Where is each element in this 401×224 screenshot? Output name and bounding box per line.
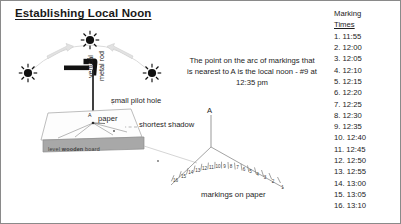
marking-time-item: 15. 13:05 [334, 189, 396, 200]
marking-time-item: 7. 12:25 [334, 99, 396, 110]
marking-times-list: 1. 11:552. 12:003. 12:054. 12:105. 12:15… [334, 31, 396, 212]
arc-marking-number: 5 [249, 169, 252, 174]
label-markings-on-paper: markings on paper [201, 191, 266, 200]
shadow-rays [58, 123, 127, 138]
marking-times-header-line2: Times [334, 19, 396, 30]
arc-marking-number: 7 [236, 165, 239, 170]
arc-marking-number: 12 [202, 165, 207, 170]
arc-marking-number: 9 [223, 163, 226, 168]
explanatory-note: The point on the arc of markings that is… [187, 56, 317, 89]
marking-time-item: 5. 12:15 [334, 76, 396, 87]
arc-marking-number: 2 [272, 179, 275, 184]
marking-time-item: 12. 12:50 [334, 155, 396, 166]
pilot-hole-dot [113, 130, 115, 132]
arc-marking-number: 11 [209, 164, 214, 169]
sun-icon-right [143, 64, 161, 82]
marking-time-item: 6. 12:20 [334, 87, 396, 98]
label-small-pilot-hole: small pilot hole [111, 97, 161, 105]
label-vertical: vertical [87, 55, 95, 78]
label-paper: paper [98, 115, 117, 123]
marking-time-item: 10. 12:40 [334, 132, 396, 143]
marking-time-item: 2. 12:00 [334, 42, 396, 53]
marking-time-item: 11. 12:45 [334, 144, 396, 155]
board-text-prefix: level [48, 146, 62, 152]
paper-sheet [41, 109, 142, 140]
marking-time-item: 1. 11:55 [334, 31, 396, 42]
marking-time-item: 16. 13:10 [334, 200, 396, 211]
diagram-page: Establishing Local Noon [0, 0, 401, 224]
point-a-board-dot [92, 122, 95, 125]
marking-time-item: 3. 12:05 [334, 53, 396, 64]
arc-marking-number: 10 [215, 164, 220, 169]
leader-board-to-arc [144, 146, 197, 163]
label-shortest-shadow: shortest shadow [139, 121, 194, 129]
sun-icon-left [19, 64, 37, 82]
arc-marking-number: 6 [243, 167, 246, 172]
arc-marking-number: 15 [181, 173, 186, 178]
arc-marking-number: 14 [188, 170, 193, 175]
arrow-icon-left [47, 43, 74, 58]
marking-time-item: 14. 13:00 [334, 178, 396, 189]
label-metal-rod: metal rod [98, 51, 106, 81]
arc-marking-number: 4 [256, 171, 259, 176]
arc-marking-number: 8 [230, 164, 233, 169]
arc-marking-number: 3 [264, 175, 267, 180]
board-text-suffix: board [83, 146, 100, 152]
marking-time-item: 9. 12:35 [334, 121, 396, 132]
label-point-a-board: A [88, 113, 91, 119]
leader-dot [157, 160, 159, 162]
arc-marking-number: 16 [173, 178, 178, 183]
arc-marking-number: 1 [281, 185, 284, 190]
marking-times-header-line1: Marking [334, 8, 396, 19]
arrow-icon-right [107, 43, 133, 58]
marking-time-item: 8. 12:30 [334, 110, 396, 121]
marking-time-item: 13. 12:55 [334, 166, 396, 177]
arc-marking-number: 13 [195, 167, 200, 172]
label-point-a-arc: A [207, 107, 212, 115]
sun-icon-top [81, 31, 99, 49]
label-level-wooden-board: level wooden board [48, 146, 100, 152]
page-title: Establishing Local Noon [15, 7, 151, 19]
board-text-bold: wooden [62, 146, 84, 152]
marking-time-item: 4. 12:10 [334, 65, 396, 76]
marking-times-panel: Marking Times 1. 11:552. 12:003. 12:054.… [334, 8, 396, 212]
